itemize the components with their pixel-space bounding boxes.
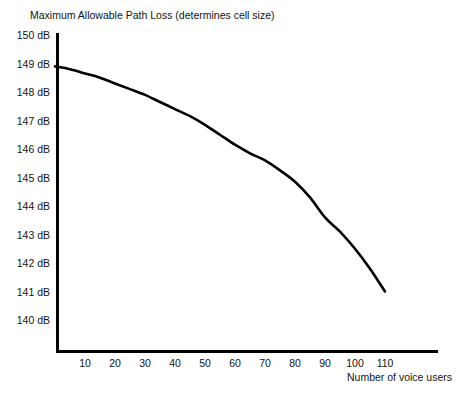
y-tick-label: 145 dB bbox=[2, 172, 50, 184]
y-tick-label: 147 dB bbox=[2, 115, 50, 127]
data-series-line bbox=[55, 66, 385, 291]
y-tick-label: 144 dB bbox=[2, 200, 50, 212]
chart-figure: Maximum Allowable Path Loss (determines … bbox=[0, 0, 457, 393]
y-tick-label: 141 dB bbox=[2, 286, 50, 298]
y-tick-label: 150 dB bbox=[2, 29, 50, 41]
bottom-caption bbox=[28, 386, 428, 393]
y-tick-label: 146 dB bbox=[2, 143, 50, 155]
plot-area bbox=[0, 0, 457, 393]
y-tick-label: 148 dB bbox=[2, 86, 50, 98]
y-tick-label: 149 dB bbox=[2, 58, 50, 70]
y-tick-label: 142 dB bbox=[2, 257, 50, 269]
x-tick-label: 110 bbox=[365, 357, 405, 369]
x-axis-title: Number of voice users bbox=[347, 371, 452, 384]
y-tick-label: 143 dB bbox=[2, 229, 50, 241]
y-tick-label: 140 dB bbox=[2, 314, 50, 326]
